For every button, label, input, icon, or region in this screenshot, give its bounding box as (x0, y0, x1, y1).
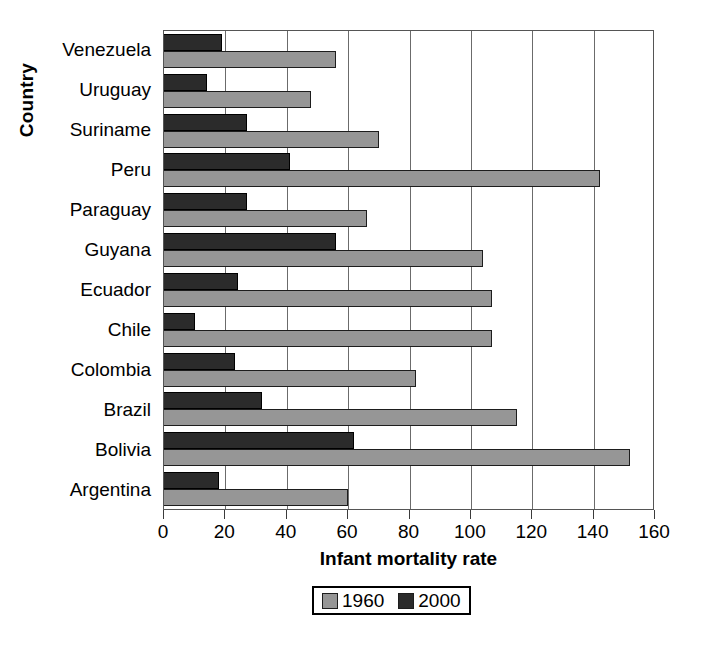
x-tick (531, 510, 532, 519)
x-axis-tick-labels: 020406080100120140160 (163, 521, 654, 547)
infant-mortality-bar-chart: Country VenezuelaUruguaySurinamePeruPara… (0, 0, 706, 647)
bar-2000 (164, 353, 235, 370)
category-label: Colombia (36, 350, 158, 390)
bar-row (164, 469, 653, 509)
x-tick (409, 510, 410, 519)
x-tick (654, 510, 655, 519)
x-tick-label: 160 (638, 521, 670, 543)
category-label: Ecuador (36, 270, 158, 310)
x-tick (224, 510, 225, 519)
bar-2000 (164, 34, 222, 51)
x-tick-label: 60 (337, 521, 358, 543)
bar-2000 (164, 114, 247, 131)
gray-swatch (322, 593, 338, 609)
category-label: Argentina (36, 470, 158, 510)
legend-item: 1960 (322, 591, 384, 610)
category-label: Uruguay (36, 70, 158, 110)
bar-row (164, 389, 653, 429)
bar-row (164, 31, 653, 71)
x-tick-label: 20 (214, 521, 235, 543)
bar-1960 (164, 170, 600, 187)
bar-1960 (164, 250, 483, 267)
legend-item: 2000 (398, 591, 460, 610)
bar-2000 (164, 472, 219, 489)
bar-2000 (164, 233, 336, 250)
x-tick-label: 140 (577, 521, 609, 543)
legend: 19602000 (312, 586, 471, 615)
x-tick-label: 0 (158, 521, 169, 543)
bar-1960 (164, 51, 336, 68)
x-tick (163, 510, 164, 519)
category-label: Venezuela (36, 30, 158, 70)
x-tick (347, 510, 348, 519)
bar-row (164, 150, 653, 190)
bar-2000 (164, 313, 195, 330)
y-axis-title: Country (16, 20, 38, 180)
bar-1960 (164, 330, 492, 347)
category-label: Brazil (36, 390, 158, 430)
bar-row (164, 429, 653, 469)
bar-row (164, 350, 653, 390)
x-axis-title: Infant mortality rate (163, 548, 654, 570)
bar-1960 (164, 409, 517, 426)
category-label: Peru (36, 150, 158, 190)
category-label: Guyana (36, 230, 158, 270)
bar-1960 (164, 449, 630, 466)
bar-row (164, 190, 653, 230)
bar-2000 (164, 432, 354, 449)
plot-area (163, 30, 654, 510)
bar-1960 (164, 489, 348, 506)
x-tick-label: 120 (515, 521, 547, 543)
bar-2000 (164, 74, 207, 91)
dark-swatch (398, 593, 414, 609)
bar-1960 (164, 370, 416, 387)
category-label: Bolivia (36, 430, 158, 470)
x-axis-ticks (163, 510, 654, 520)
legend-label: 1960 (342, 591, 384, 610)
bar-row (164, 270, 653, 310)
y-axis-category-labels: VenezuelaUruguaySurinamePeruParaguayGuya… (36, 30, 158, 510)
category-label: Paraguay (36, 190, 158, 230)
bar-1960 (164, 210, 367, 227)
x-tick-label: 80 (398, 521, 419, 543)
x-tick-label: 40 (275, 521, 296, 543)
bar-row (164, 230, 653, 270)
bar-2000 (164, 153, 290, 170)
bar-1960 (164, 131, 379, 148)
bar-row (164, 310, 653, 350)
legend-label: 2000 (418, 591, 460, 610)
x-tick (593, 510, 594, 519)
bar-rows (164, 31, 653, 509)
x-tick (470, 510, 471, 519)
x-tick (286, 510, 287, 519)
bar-1960 (164, 91, 311, 108)
bar-2000 (164, 193, 247, 210)
x-tick-label: 100 (454, 521, 486, 543)
bar-row (164, 111, 653, 151)
category-label: Suriname (36, 110, 158, 150)
bar-row (164, 71, 653, 111)
bar-2000 (164, 273, 238, 290)
bar-1960 (164, 290, 492, 307)
category-label: Chile (36, 310, 158, 350)
bar-2000 (164, 392, 262, 409)
